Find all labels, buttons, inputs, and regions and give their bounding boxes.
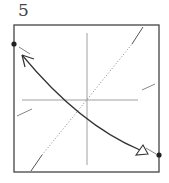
dash-fold-upper: [132, 27, 143, 44]
paper-square: [14, 25, 159, 172]
reference-dot-bottom-right: [156, 152, 161, 157]
pinch-mark-left: [17, 109, 32, 116]
reference-dot-top-left: [11, 41, 16, 46]
dash-fold-lower: [31, 155, 42, 171]
pinch-mark-right: [142, 84, 155, 90]
hollow-arrow-head-icon: [136, 145, 148, 155]
fold-arrow: [22, 55, 140, 150]
pinch-mark-top-left: [19, 47, 30, 54]
origami-diagram: [0, 0, 169, 183]
